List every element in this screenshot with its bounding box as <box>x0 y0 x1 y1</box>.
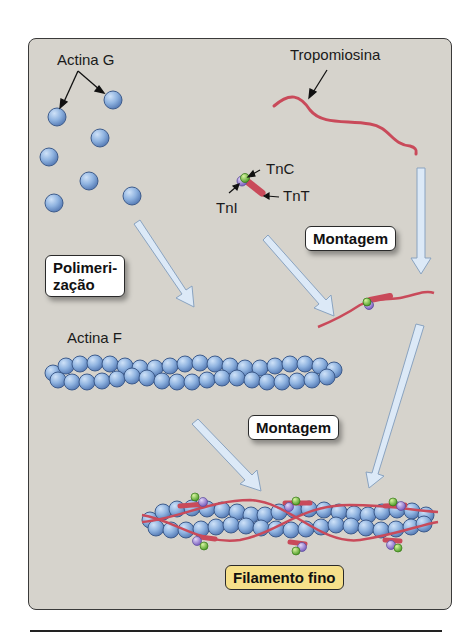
process-arrows <box>134 168 431 491</box>
step-assembly-1: Montagem <box>305 226 396 251</box>
label-tnt: TnT <box>283 187 310 204</box>
thin-filament <box>142 493 438 555</box>
step-assembly-2: Montagem <box>248 415 339 440</box>
tropomyosin-troponin-assembly <box>318 292 434 327</box>
step-polymerization-line1: Polimeri- <box>53 259 117 276</box>
bottom-rule <box>30 630 442 632</box>
step-polymerization: Polimeri- zação <box>45 255 125 297</box>
f-actin-filament <box>45 355 342 390</box>
diagram-artwork <box>0 0 472 641</box>
actin-g-pointer-arrows <box>60 71 104 108</box>
label-tni: TnI <box>216 199 238 216</box>
tropomyosin-strand <box>274 97 416 154</box>
label-actin-f: Actina F <box>67 329 122 346</box>
label-tnc: TnC <box>266 160 294 177</box>
g-actin-monomers <box>40 91 141 212</box>
label-tropomyosin: Tropomiosina <box>290 46 380 63</box>
step-polymerization-line2: zação <box>53 276 117 293</box>
label-actin-g: Actina G <box>57 51 115 68</box>
result-thin-filament: Filamento fino <box>225 565 344 590</box>
